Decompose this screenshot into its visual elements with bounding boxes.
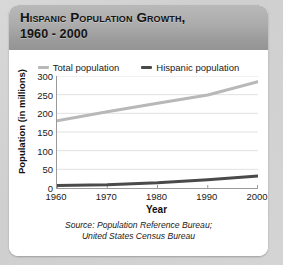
legend-label-total-population: Total population [53, 62, 120, 73]
chart-card: Hispanic Population Growth, 1960 - 2000 … [9, 5, 268, 256]
legend-label-hispanic-population: Hispanic population [156, 62, 239, 73]
plot-wrapper: Population (in millions) 050100150200250… [9, 76, 268, 206]
chart-lines-svg [57, 76, 258, 188]
legend-item-hispanic-population: Hispanic population [141, 62, 239, 73]
x-axis-title: Year [56, 204, 257, 215]
x-axis-tick-labels: 19601970198019902000 [56, 191, 259, 205]
source-note: Source: Population Reference Bureau; Uni… [19, 220, 258, 241]
x-axis-tick-label: 1970 [96, 191, 117, 202]
x-axis-tick-label: 1990 [196, 191, 217, 202]
chart-title-bar: Hispanic Population Growth, 1960 - 2000 [9, 5, 268, 50]
screenshot-root: Hispanic Population Growth, 1960 - 2000 … [0, 0, 283, 265]
y-axis-title: Population (in millions) [16, 68, 27, 176]
chart-title-main: Hispanic Population Growth, [20, 10, 258, 26]
x-axis-tick-label: 2000 [246, 191, 267, 202]
series-line-hispanic-population [57, 176, 258, 185]
y-axis-tick-labels: 050100150200250300 [27, 76, 53, 188]
y-axis-tick-label: 100 [37, 145, 53, 156]
chart-body: Total population Hispanic population Pop… [9, 50, 268, 256]
legend-swatch-hispanic-population [141, 66, 152, 69]
x-axis-tick-label: 1980 [146, 191, 167, 202]
series-line-total-population [57, 82, 258, 121]
source-line-1: Source: Population Reference Bureau; [19, 220, 258, 231]
legend-swatch-total-population [38, 66, 49, 69]
plot-area [56, 76, 258, 189]
y-axis-tick-label: 300 [37, 71, 53, 82]
y-axis-tick-label: 150 [37, 127, 53, 138]
y-axis-tick-label: 250 [37, 89, 53, 100]
y-axis-tick-label: 50 [42, 164, 53, 175]
y-axis-tick-label: 200 [37, 108, 53, 119]
chart-title-subtitle: 1960 - 2000 [20, 26, 258, 42]
x-axis-tick-label: 1960 [45, 191, 66, 202]
source-line-2: United States Census Bureau [19, 231, 258, 242]
